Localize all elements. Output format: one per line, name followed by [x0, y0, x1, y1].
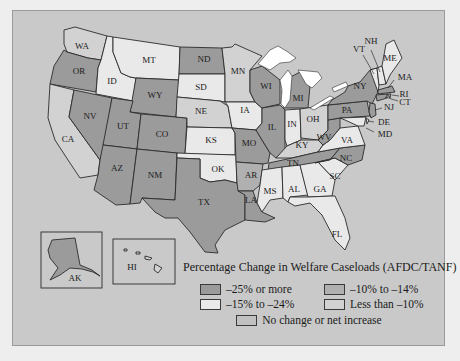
state-MD[interactable]: [340, 117, 366, 126]
label-AR: AR: [245, 170, 258, 180]
label-MS: MS: [263, 186, 276, 196]
state-RI[interactable]: [387, 94, 391, 98]
legend-title: Percentage Change in Welfare Caseloads (…: [183, 260, 445, 275]
legend-swatch-white: [200, 299, 221, 310]
legend-label-white: –15% to –24%: [226, 298, 294, 310]
label-OR: OR: [73, 66, 86, 76]
state-MA[interactable]: [378, 86, 395, 94]
label-NC: NC: [340, 153, 353, 163]
legend-item-dark: –25% or more: [200, 283, 318, 295]
legend-label-mid: –10% to –14%: [350, 283, 418, 295]
label-LA: LA: [245, 195, 257, 205]
label-IL: IL: [268, 122, 277, 132]
label-UT: UT: [117, 121, 129, 131]
label-ME: ME: [383, 53, 397, 63]
label-MN: MN: [231, 66, 246, 76]
label-IA: IA: [240, 105, 250, 115]
label-MT: MT: [142, 55, 156, 65]
label-MI: MI: [293, 93, 304, 103]
label-HI: HI: [127, 262, 137, 272]
label-AK: AK: [69, 273, 82, 283]
label-NY: NY: [354, 81, 367, 91]
label-CO: CO: [156, 129, 169, 139]
label-WY: WY: [148, 90, 163, 100]
label-CT: CT: [399, 97, 411, 107]
legend-swatch-mid: [324, 284, 345, 295]
label-CA: CA: [62, 134, 75, 144]
label-GA: GA: [314, 184, 327, 194]
leader-ri: [392, 95, 399, 96]
legend-label-dark: –25% or more: [226, 283, 292, 295]
label-VA: VA: [341, 135, 353, 145]
label-IN: IN: [287, 119, 297, 129]
label-NM: NM: [148, 170, 163, 180]
label-ID: ID: [107, 76, 117, 86]
legend-item-mid: –10% to –14%: [324, 283, 444, 295]
label-SC: SC: [329, 171, 340, 181]
lake-superior: [258, 46, 296, 70]
legend-label-light: Less than –10%: [350, 298, 423, 310]
label-PA: PA: [342, 105, 353, 115]
label-DE: DE: [378, 117, 390, 127]
leader-nj: [375, 108, 382, 110]
label-ND: ND: [198, 54, 211, 64]
legend: Percentage Change in Welfare Caseloads (…: [183, 260, 445, 326]
label-AL: AL: [288, 184, 300, 194]
legend-grid: –25% or more –10% to –14% –15% to –24% L…: [200, 283, 445, 310]
label-FL: FL: [332, 229, 343, 239]
label-MO: MO: [242, 138, 257, 148]
state-NJ[interactable]: [369, 103, 376, 118]
label-KS: KS: [205, 135, 217, 145]
legend-label-none: No change or net increase: [262, 314, 381, 326]
label-MD: MD: [378, 129, 393, 139]
leader-de: [368, 121, 374, 122]
state-CT[interactable]: [376, 94, 387, 101]
legend-item-light: Less than –10%: [324, 298, 444, 310]
legend-item-none: No change or net increase: [173, 314, 445, 326]
label-WV: WV: [317, 132, 332, 142]
inset-hawaii-frame: [113, 239, 175, 284]
label-WI: WI: [260, 81, 272, 91]
label-WA: WA: [75, 41, 89, 51]
label-NJ: NJ: [384, 102, 394, 112]
legend-item-white: –15% to –24%: [200, 298, 318, 310]
legend-swatch-dark: [200, 284, 221, 295]
label-NE: NE: [195, 106, 207, 116]
label-KY: KY: [296, 140, 309, 150]
label-TN: TN: [287, 158, 299, 168]
leader-ct: [385, 97, 398, 101]
legend-swatch-none: [236, 315, 257, 326]
label-SD: SD: [195, 82, 207, 92]
label-OK: OK: [212, 164, 225, 174]
leader-md: [366, 128, 374, 132]
legend-swatch-light: [324, 299, 345, 310]
label-MA: MA: [398, 72, 413, 82]
label-NH: NH: [365, 36, 378, 46]
label-TX: TX: [198, 197, 210, 207]
state-FL[interactable]: [288, 196, 350, 250]
label-OH: OH: [307, 114, 320, 124]
label-NV: NV: [84, 111, 97, 121]
label-AZ: AZ: [111, 163, 123, 173]
